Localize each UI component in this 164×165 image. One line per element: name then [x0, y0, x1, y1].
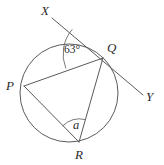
angle-label-a: a	[73, 119, 79, 132]
line-xy	[52, 18, 143, 95]
point-label-q: Q	[107, 41, 116, 54]
chord-qr	[79, 58, 103, 142]
circle-geometry-diagram: P Q R X Y 63° a	[0, 0, 164, 165]
point-label-p: P	[6, 79, 14, 92]
point-label-y: Y	[146, 90, 153, 103]
chord-pr	[24, 86, 79, 142]
geometry-canvas	[0, 0, 164, 165]
point-label-x: X	[41, 4, 49, 17]
angle-label-63-degrees: 63°	[64, 44, 80, 56]
point-label-r: R	[75, 148, 83, 161]
